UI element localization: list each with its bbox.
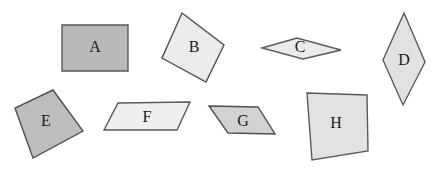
shape-c <box>262 38 341 59</box>
shapes-figure: ABCDEFGH <box>0 0 435 175</box>
shape-g <box>209 106 275 134</box>
shape-f <box>104 102 190 130</box>
shape-a <box>62 25 128 71</box>
shapes-svg-canvas: ABCDEFGH <box>0 0 435 175</box>
shape-d <box>383 13 425 105</box>
quadrilaterals-group: ABCDEFGH <box>15 13 425 160</box>
shape-b <box>162 13 224 82</box>
shape-e <box>15 90 83 158</box>
shape-h <box>307 93 368 160</box>
